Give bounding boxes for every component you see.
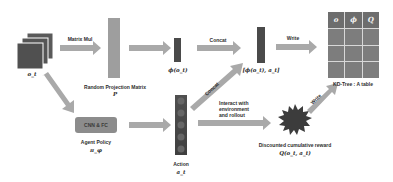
kd-header-o: o: [328, 12, 344, 28]
agent-policy-symbol: π_φ: [90, 148, 102, 154]
reward-starburst-icon: [278, 104, 312, 135]
key-vector-label: [ϕ(o_t), a_t]: [242, 68, 279, 74]
write-arrow-top: [276, 40, 317, 54]
concat-top-label: Concat: [210, 38, 227, 43]
concat-arrow-top: [197, 41, 241, 55]
kd-header-q: Q: [363, 12, 379, 28]
kd-cell: [345, 29, 361, 45]
embedding-label: ϕ(o_t): [168, 68, 187, 74]
kd-cell: [363, 62, 379, 78]
interact-label-line3: and rollout: [219, 113, 245, 118]
cnn-fc-label: CNN & FC: [84, 122, 108, 128]
action-bar: [175, 95, 187, 155]
projection-title: Random Projection Matrix: [84, 85, 146, 90]
kd-cell: [363, 29, 379, 45]
agent-policy-title: Agent Policy: [81, 140, 111, 145]
kd-cell: [328, 29, 344, 45]
cnn-fc-box: CNN & FC: [75, 117, 117, 133]
kd-tree-caption: KD-Tree : A table: [333, 82, 373, 87]
kd-header-phi: ϕ: [345, 12, 361, 28]
stacked-frames-icon: [17, 33, 53, 69]
matrix-mul-arrow: [60, 41, 101, 55]
action-symbol: a_t: [177, 170, 186, 176]
embedding-bar: [174, 38, 181, 62]
projection-arrow: [129, 41, 171, 55]
kd-cell: [328, 46, 344, 62]
interact-arrow: [198, 116, 271, 130]
kd-cell: [345, 62, 361, 78]
projection-symbol: P: [113, 92, 117, 98]
reward-symbol: Q(o_t, a_t): [279, 151, 311, 157]
random-projection-bar: [108, 18, 120, 78]
reward-title: Discounted cumulative reward: [259, 143, 332, 148]
action-title: Action: [173, 162, 189, 167]
observation-to-policy-arrow: [42, 72, 74, 113]
kd-cell: [363, 46, 379, 62]
key-vector-bar: [257, 27, 265, 63]
kd-cell: [345, 46, 361, 62]
policy-to-action-arrow: [129, 118, 171, 132]
matrix-mul-label: Matrix Mul: [68, 37, 93, 42]
write-top-label: Write: [287, 36, 299, 41]
kd-tree-table: o ϕ Q: [328, 12, 379, 78]
observation-label: o_t: [28, 72, 37, 78]
kd-cell: [328, 62, 344, 78]
